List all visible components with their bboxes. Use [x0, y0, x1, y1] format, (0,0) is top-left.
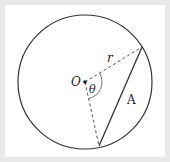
circle-segment-diagram: O r θ A — [0, 0, 170, 162]
center-point — [83, 80, 87, 84]
label-radius: r — [107, 51, 114, 65]
radius-line-upper — [85, 47, 142, 82]
label-center: O — [71, 75, 81, 89]
label-angle: θ — [89, 83, 96, 96]
label-area: A — [126, 93, 136, 107]
